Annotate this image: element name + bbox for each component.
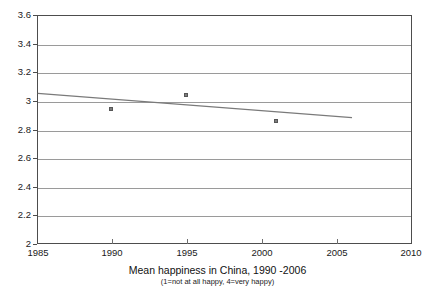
chart-title: Mean happiness in China, 1990 -2006 — [0, 264, 435, 276]
x-tick-mark-2000 — [262, 239, 263, 244]
chart-figure: 3.6 3.4 3.2 3 2.8 2.6 2.4 2.2 2 1985 199… — [0, 0, 435, 303]
y-tick-mark-2.2 — [33, 215, 37, 216]
x-tick-mark-1990 — [112, 239, 113, 244]
y-tick-mark-3.6 — [33, 15, 37, 16]
x-tick-label-1990: 1990 — [101, 247, 122, 258]
chart-subtitle: (1=not at all happy, 4=very happy) — [0, 277, 435, 286]
gridline-2.8 — [38, 131, 411, 132]
y-tick-mark-3 — [33, 101, 37, 102]
y-tick-mark-2.6 — [33, 158, 37, 159]
y-tick-mark-3.4 — [33, 44, 37, 45]
y-tick-label-3: 3 — [6, 96, 31, 106]
y-tick-label-2.8: 2.8 — [6, 125, 31, 135]
plot-area — [37, 15, 412, 244]
x-tick-mark-2005 — [337, 239, 338, 244]
gridline-3.2 — [38, 73, 411, 74]
data-point-1995 — [184, 93, 188, 97]
x-tick-mark-1995 — [187, 239, 188, 244]
x-tick-label-1995: 1995 — [176, 247, 197, 258]
x-tick-label-2000: 2000 — [251, 247, 272, 258]
y-tick-label-3.2: 3.2 — [6, 67, 31, 77]
y-tick-mark-2 — [33, 244, 37, 245]
x-tick-label-2010: 2010 — [400, 247, 421, 258]
gridline-3.4 — [38, 45, 411, 46]
x-tick-label-1985: 1985 — [27, 247, 48, 258]
gridline-3.0 — [38, 102, 411, 103]
gridline-2.2 — [38, 216, 411, 217]
data-point-1990 — [109, 107, 113, 111]
y-tick-label-3.4: 3.4 — [6, 39, 31, 49]
y-tick-mark-2.4 — [33, 187, 37, 188]
x-tick-label-2005: 2005 — [326, 247, 347, 258]
gridline-2.4 — [38, 188, 411, 189]
y-tick-label-2.6: 2.6 — [6, 153, 31, 163]
data-point-2001 — [274, 119, 278, 123]
gridline-2.6 — [38, 159, 411, 160]
y-tick-mark-3.2 — [33, 72, 37, 73]
y-tick-label-2.4: 2.4 — [6, 182, 31, 192]
y-tick-label-2.2: 2.2 — [6, 210, 31, 220]
y-tick-label-3.6: 3.6 — [6, 10, 31, 20]
y-tick-mark-2.8 — [33, 130, 37, 131]
